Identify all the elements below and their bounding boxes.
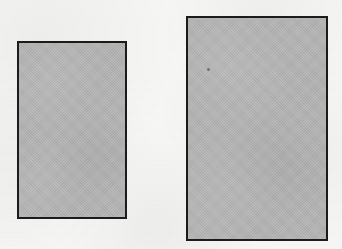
scan-speck-artifact — [207, 68, 210, 71]
figure-canvas — [0, 0, 342, 249]
rectangle-left — [17, 41, 127, 219]
rectangle-right — [186, 16, 328, 241]
